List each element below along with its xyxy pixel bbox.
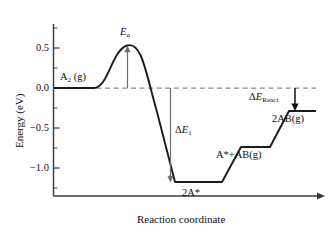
- label-delta-e-react-subscript: React: [262, 96, 278, 104]
- label-delta-e1-subscript: 1: [188, 129, 192, 137]
- x-axis-title: Reaction coordinate: [137, 214, 225, 225]
- label-reactant-a2-g: A2 (g): [60, 72, 86, 83]
- label-reactant-subscript: 2: [68, 76, 72, 84]
- label-intermediate-well-2a-star: 2A*: [182, 188, 200, 199]
- activation-energy-arrow: [124, 46, 130, 89]
- delta-e1-arrow: [167, 88, 173, 183]
- y-tick-label-neg-1-0: −1.0: [18, 163, 49, 174]
- energy-diagram-figure: 0.5 0.0 −0.5 −1.0 Energy (eV) Reaction c…: [0, 0, 331, 234]
- y-tick-label-0-5: 0.5: [22, 43, 49, 54]
- label-ea-subscript: a: [126, 31, 130, 39]
- delta-e-react-arrow: [291, 88, 298, 111]
- label-activation-energy: Ea: [120, 27, 130, 38]
- label-reactant-phase: (g): [71, 71, 86, 82]
- label-reactant-main: A: [60, 71, 68, 82]
- x-axis-arrowhead: [317, 192, 325, 199]
- y-axis-title: Energy (eV): [14, 94, 25, 148]
- label-delta-e-react: ΔEReact: [249, 92, 278, 103]
- label-delta-e1: ΔE1: [175, 125, 192, 136]
- label-product-2ab-g: 2AB(g): [272, 114, 304, 125]
- label-second-intermediate: A*+AB(g): [216, 150, 262, 161]
- axis-group: [54, 24, 326, 200]
- label-delta-e-react-delta: Δ: [249, 91, 256, 102]
- y-tick-label-0-0: 0.0: [22, 83, 49, 94]
- label-delta-e1-delta: Δ: [175, 124, 182, 135]
